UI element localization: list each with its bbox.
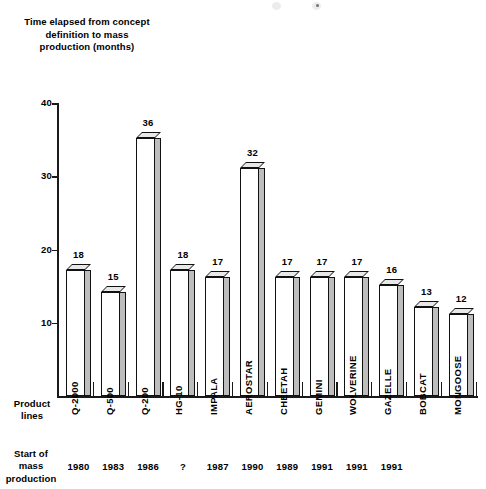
bar-front-face (101, 292, 120, 396)
bar-side-face (294, 277, 300, 396)
bar-value-label: 12 (444, 293, 478, 304)
start-of-mass-production-year: 1987 (201, 461, 235, 472)
bar-value-label: 18 (62, 249, 96, 260)
x-tick-mark (197, 382, 198, 396)
y-tick-label: 10 (26, 317, 52, 328)
bar-side-face (155, 138, 161, 396)
x-tick-mark (232, 382, 233, 396)
y-tick-label: 40 (26, 97, 52, 108)
bar-side-face (189, 270, 195, 396)
x-tick-mark (336, 382, 337, 396)
category-label-gazelle: GAZELLE (382, 369, 393, 415)
start-of-mass-production-year: 1983 (96, 461, 130, 472)
bar-front-face (310, 277, 329, 396)
start-of-mass-production-year: 1986 (131, 461, 165, 472)
bar (170, 264, 195, 396)
bar-value-label: 36 (131, 117, 165, 128)
x-tick-mark (162, 382, 163, 396)
x-tick-mark (58, 382, 59, 396)
start-of-mass-production-year: 1990 (236, 461, 270, 472)
bar-side-face (398, 285, 404, 396)
y-tick-mark (52, 250, 57, 252)
start-of-mass-production-year: 1991 (305, 461, 339, 472)
y-tick-mark (52, 103, 57, 105)
x-tick-mark (406, 382, 407, 396)
bar-value-label: 17 (201, 256, 235, 267)
category-label-cheetah: CHEETAH (278, 368, 289, 415)
bar-value-label: 32 (236, 147, 270, 158)
y-tick-mark (52, 176, 57, 178)
category-label-bobcat: BOBCAT (417, 373, 428, 415)
bar-side-face (363, 277, 369, 396)
bar-side-face (85, 270, 91, 396)
row-label-product-lines: Product lines (6, 398, 58, 423)
x-axis-line (57, 396, 478, 398)
y-tick-mark (52, 323, 57, 325)
bar-chart-plot: 10203040181536181732171717161312 (0, 0, 486, 489)
bar-value-label: 18 (166, 249, 200, 260)
y-axis-line (57, 103, 59, 397)
bar-front-face (170, 270, 189, 396)
x-tick-mark (93, 382, 94, 396)
bar-value-label: 15 (96, 271, 130, 282)
category-label-wolverine: WOLVERINE (347, 355, 358, 415)
category-label-q-2000: Q-2000 (69, 382, 80, 416)
x-tick-mark (441, 382, 442, 396)
chart-page: Time elapsed from concept definition to … (0, 0, 486, 489)
bar-side-face (433, 307, 439, 396)
bar-side-face (329, 277, 335, 396)
bar-side-face (468, 314, 474, 396)
bar-front-face (136, 138, 155, 396)
x-tick-mark (476, 382, 477, 396)
bar-value-label: 16 (375, 264, 409, 275)
bar-side-face (224, 277, 230, 396)
category-label-q-500: Q-500 (104, 387, 115, 415)
start-of-mass-production-year: 1989 (270, 461, 304, 472)
category-label-q-200: Q-200 (139, 387, 150, 415)
x-tick-mark (371, 382, 372, 396)
bar (101, 286, 126, 396)
start-of-mass-production-year: 1980 (62, 461, 96, 472)
category-label-aerostar: AEROSTAR (243, 360, 254, 415)
start-of-mass-production-year: 1991 (375, 461, 409, 472)
y-tick-label: 30 (26, 170, 52, 181)
category-label-gemini: GEMINI (313, 379, 324, 415)
y-tick-label: 20 (26, 244, 52, 255)
x-tick-mark (128, 382, 129, 396)
bar-side-face (120, 292, 126, 396)
bar-value-label: 13 (410, 286, 444, 297)
start-of-mass-production-year: 1991 (340, 461, 374, 472)
row-label-start-of-mass-production: Start of mass production (3, 448, 59, 485)
category-label-hg-10: HG-10 (173, 386, 184, 415)
category-label-mongoose: MONGOOSE (452, 356, 463, 415)
start-of-mass-production-year: ? (166, 461, 200, 472)
bar (136, 132, 161, 396)
bar-side-face (259, 168, 265, 396)
bar-front-face (66, 270, 85, 396)
bar (66, 264, 91, 396)
bar-value-label: 17 (305, 256, 339, 267)
bar (310, 271, 335, 396)
bar-value-label: 17 (270, 256, 304, 267)
category-label-impala: IMPALA (208, 377, 219, 415)
x-tick-mark (302, 382, 303, 396)
bar-value-label: 17 (340, 256, 374, 267)
x-tick-mark (267, 382, 268, 396)
